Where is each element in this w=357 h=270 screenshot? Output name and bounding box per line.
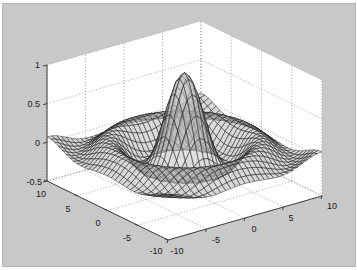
axis-line bbox=[43, 142, 47, 143]
axis-line bbox=[43, 65, 47, 66]
axis-line bbox=[43, 181, 47, 182]
z-tick-label: 0.5 bbox=[27, 99, 40, 109]
x-tick-label: 0 bbox=[251, 224, 256, 234]
y-tick-label: 0 bbox=[95, 218, 100, 228]
surface-plot: 1 0.5 0 -0.5 10 5 0 -5 -10 -10 -5 0 5 10 bbox=[0, 0, 357, 270]
axis-line bbox=[43, 104, 47, 105]
z-axis-ticks: 1 0.5 0 -0.5 bbox=[26, 60, 42, 187]
y-tick-label: 10 bbox=[36, 189, 46, 199]
y-tick-label: -5 bbox=[123, 233, 131, 243]
x-tick-label: -10 bbox=[170, 246, 183, 256]
z-tick-label: 0 bbox=[35, 138, 40, 148]
axis-line bbox=[167, 240, 168, 243]
x-tick-label: 5 bbox=[288, 213, 293, 223]
z-tick-label: -0.5 bbox=[26, 177, 42, 187]
y-tick-label: -10 bbox=[149, 246, 162, 256]
z-tick-label: 1 bbox=[35, 60, 40, 70]
x-tick-label: 10 bbox=[327, 201, 337, 211]
x-tick-label: -5 bbox=[212, 235, 220, 245]
y-tick-label: 5 bbox=[65, 204, 70, 214]
